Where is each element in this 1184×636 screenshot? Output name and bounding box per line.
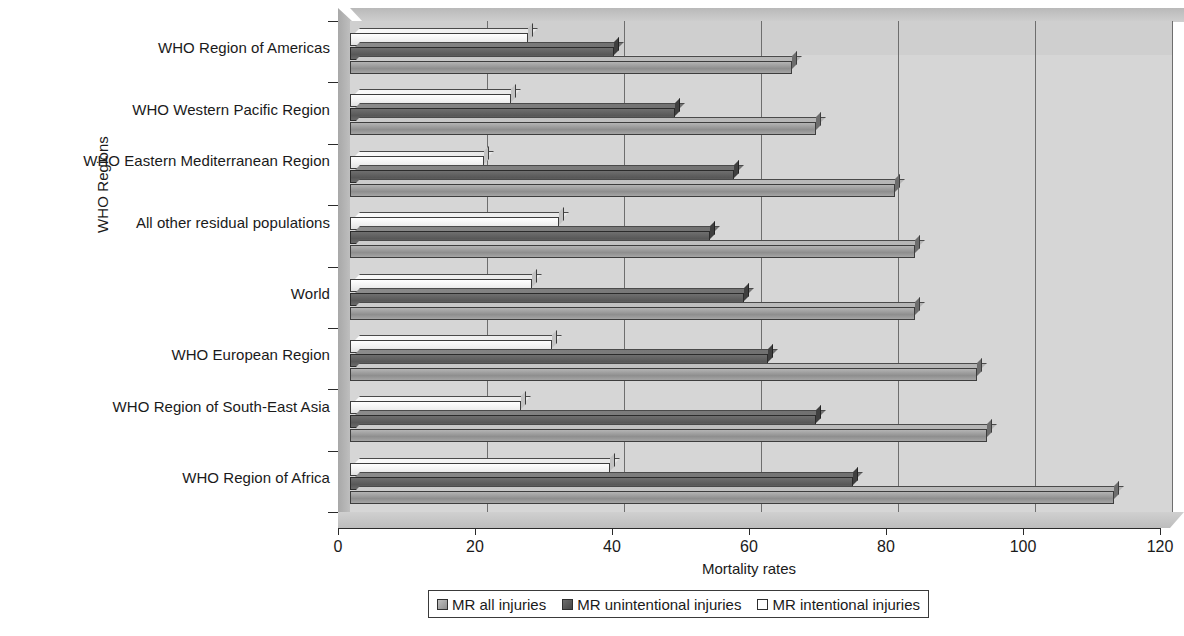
bar-side-face [610, 453, 615, 471]
category-label-6: WHO Region of South-East Asia [38, 397, 330, 416]
y-tick [328, 267, 338, 268]
bar-side-face [768, 344, 773, 362]
bar-face [350, 491, 1114, 504]
bar-group [350, 451, 1184, 512]
bar-all [350, 184, 895, 197]
bar-side-face [614, 37, 619, 55]
x-tick-100 [1023, 528, 1024, 535]
bar-side-face [532, 269, 537, 287]
legend-label: MR unintentional injuries [577, 596, 741, 613]
x-tick-label-60: 60 [719, 538, 779, 556]
bar-side-face [853, 467, 858, 485]
x-tick-label-0: 0 [308, 538, 368, 556]
bars-layer [350, 21, 1184, 512]
bar-side-face [559, 207, 564, 225]
bar-side-face [816, 405, 821, 423]
bar-face [350, 368, 977, 381]
plot-floor [338, 512, 1184, 528]
x-tick-40 [612, 528, 613, 535]
x-tick-20 [475, 528, 476, 535]
bar-side-face [915, 297, 920, 315]
bar-face [350, 122, 816, 135]
legend-item-2[interactable]: MR intentional injuries [757, 596, 920, 613]
category-label-7: WHO Region of Africa [38, 468, 330, 487]
bar-side-face [977, 358, 982, 376]
bar-face [350, 61, 792, 74]
bar-all [350, 491, 1114, 504]
category-label-0: WHO Region of Americas [38, 38, 330, 57]
bar-group [350, 21, 1184, 82]
plot-top-wall [350, 8, 1184, 22]
legend-label: MR intentional injuries [772, 596, 920, 613]
category-label-3: All other residual populations [38, 213, 330, 232]
legend-swatch-intentional-icon [757, 599, 768, 610]
y-tick [328, 144, 338, 145]
category-label-1: WHO Western Pacific Region [38, 100, 330, 119]
bar-side-face [792, 51, 797, 69]
bar-group [350, 205, 1184, 266]
bar-side-face [1114, 481, 1119, 499]
bar-all [350, 307, 915, 320]
y-axis-category-labels: WHO Region of AmericasWHO Western Pacifi… [40, 0, 338, 636]
bar-all [350, 429, 987, 442]
x-tick-0 [338, 528, 339, 535]
bar-side-face [552, 330, 557, 348]
legend-item-1[interactable]: MR unintentional injuries [562, 596, 741, 613]
y-tick [328, 205, 338, 206]
bar-group [350, 144, 1184, 205]
bar-side-face [675, 98, 680, 116]
y-tick [328, 389, 338, 390]
bar-side-face [915, 235, 920, 253]
bar-side-face [744, 283, 749, 301]
legend-swatch-unintentional-icon [562, 599, 573, 610]
plot-area [338, 8, 1184, 528]
x-tick-label-100: 100 [993, 538, 1053, 556]
x-tick-label-80: 80 [856, 538, 916, 556]
x-axis: 020406080100120 [338, 528, 1184, 530]
y-tick [328, 512, 338, 513]
chart-legend: MR all injuriesMR unintentional injuries… [428, 590, 929, 618]
bar-side-face [816, 112, 821, 130]
bar-all [350, 245, 915, 258]
legend-swatch-all-icon [437, 599, 448, 610]
x-tick-label-20: 20 [445, 538, 505, 556]
x-tick-60 [749, 528, 750, 535]
bar-group [350, 267, 1184, 328]
legend-label: MR all injuries [452, 596, 546, 613]
category-label-4: World [38, 284, 330, 303]
bar-side-face [484, 146, 489, 164]
bar-face [350, 307, 915, 320]
bar-all [350, 61, 792, 74]
bar-side-face [895, 174, 900, 192]
category-label-5: WHO European Region [38, 345, 330, 364]
bar-side-face [987, 419, 992, 437]
bar-all [350, 122, 816, 135]
bar-face [350, 184, 895, 197]
y-tick [328, 328, 338, 329]
bar-face [350, 245, 915, 258]
x-tick-80 [886, 528, 887, 535]
y-tick [328, 82, 338, 83]
bar-chart: WHO Regions WHO Region of AmericasWHO We… [0, 0, 1184, 636]
bar-group [350, 328, 1184, 389]
bar-side-face [710, 221, 715, 239]
y-tick [328, 451, 338, 452]
bar-all [350, 368, 977, 381]
x-tick-120 [1160, 528, 1161, 535]
bar-side-face [521, 391, 526, 409]
bar-face [350, 429, 987, 442]
x-axis-title: Mortality rates [338, 560, 1160, 577]
bar-side-face [734, 160, 739, 178]
legend-item-0[interactable]: MR all injuries [437, 596, 546, 613]
x-tick-label-120: 120 [1130, 538, 1184, 556]
bar-side-face [511, 84, 516, 102]
y-tick [328, 21, 338, 22]
category-label-2: WHO Eastern Mediterranean Region [38, 151, 330, 170]
x-tick-label-40: 40 [582, 538, 642, 556]
bar-group [350, 82, 1184, 143]
bar-side-face [528, 23, 533, 41]
bar-group [350, 389, 1184, 450]
